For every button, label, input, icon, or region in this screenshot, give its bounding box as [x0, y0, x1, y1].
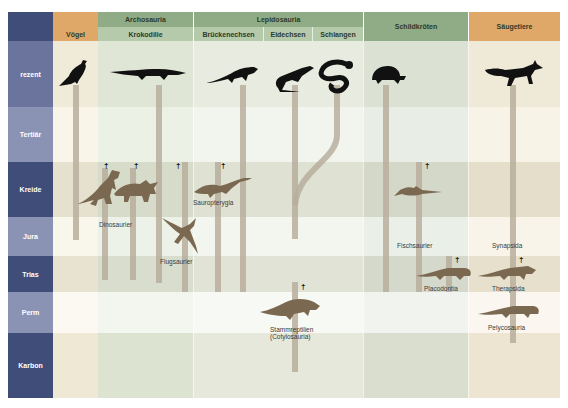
header-column-eidechsen: Eidechsen — [264, 27, 313, 41]
ichthyosaur-icon — [392, 182, 444, 200]
header-column-brueckenechsen: Brückenechsen — [194, 27, 264, 41]
header-group-archosauria: Archosauria — [98, 12, 193, 27]
label-flugsaurier: Flugsaurier — [160, 258, 193, 265]
era-trias: Trias — [8, 256, 53, 292]
label-synapsida: Synapsida — [492, 242, 522, 249]
label-cotylosauria: (Cotylosauria) — [270, 333, 310, 340]
extinct-marker: † — [455, 256, 459, 264]
extinct-marker: † — [134, 162, 138, 170]
stem-reptile-icon — [258, 294, 322, 324]
header-column-schlangen: Schlangen — [313, 27, 363, 41]
header-spacer-voegel — [53, 12, 98, 27]
row-shade-karbon — [53, 333, 560, 398]
snake-icon — [318, 60, 356, 94]
header-column-saeugetiere: Säugetiere — [469, 12, 560, 41]
era-spacer — [8, 12, 53, 41]
header-group-lepidosauria: Lepidosauria — [194, 12, 363, 27]
label-sauropterygia: Sauropterygia — [193, 199, 233, 206]
extinct-marker: † — [176, 162, 180, 170]
label-dinosaurier: Dinosaurier — [99, 221, 132, 228]
lineage-bar-voegel — [73, 85, 79, 240]
pterosaur-icon — [160, 216, 204, 256]
label-stammreptilien: Stammreptilien — [270, 326, 313, 333]
placodont-icon — [414, 264, 474, 280]
therapsid-icon — [476, 264, 538, 280]
header-column-schildkroeten: Schildkröten — [364, 12, 468, 41]
era-perm: Perm — [8, 292, 53, 333]
fox-icon — [483, 60, 545, 86]
label-placodontia: Placodontia — [424, 285, 458, 292]
extinct-marker: † — [104, 162, 108, 170]
tuatara-icon — [204, 63, 260, 85]
pelycosaur-icon — [476, 302, 542, 318]
label-therapsida: Therapsida — [492, 285, 525, 292]
extinct-marker: † — [301, 283, 305, 291]
divider — [363, 12, 364, 398]
divider — [468, 12, 469, 398]
extinct-marker: † — [519, 256, 523, 264]
crocodile-icon — [108, 66, 188, 82]
era-karbon: Karbon — [8, 333, 53, 398]
plesiosaur-icon — [192, 176, 254, 198]
header-column-voegel: Vögel — [53, 27, 98, 41]
era-kreide: Kreide — [8, 162, 53, 217]
lizard-icon — [272, 60, 316, 92]
dinosaur-triceratops-icon — [112, 178, 160, 204]
header-column-krokodilie: Krokodilie — [98, 27, 193, 41]
lineage-bar-schildkroeten — [383, 85, 389, 292]
bird-icon — [57, 58, 91, 88]
label-pelycosauria: Pelycosauria — [488, 324, 525, 331]
extinct-marker: † — [425, 162, 429, 170]
extinct-marker: † — [221, 162, 225, 170]
era-tertiaer: Tertiär — [8, 107, 53, 162]
label-fischsaurier: Fischsaurier — [397, 242, 432, 249]
lineage-branch-schlangen — [290, 85, 350, 205]
era-rezent: rezent — [8, 41, 53, 107]
era-jura: Jura — [8, 217, 53, 256]
turtle-icon — [368, 64, 408, 84]
